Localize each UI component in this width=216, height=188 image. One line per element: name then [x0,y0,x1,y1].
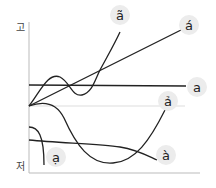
tone-label-ngang: a [187,77,207,97]
tone-label-hoi: ả [158,91,178,111]
low-pitch-label: 저 [16,162,25,172]
tone-label-huyen: à [156,145,176,165]
curve-nga [29,32,120,106]
curve-nang [29,127,44,165]
tone-label-sac: á [179,15,199,35]
tone-label-nga: ã [110,5,130,25]
tone-label-nang: ạ [46,147,66,167]
curve-ngang [29,85,186,86]
high-pitch-label: 고 [16,23,25,33]
